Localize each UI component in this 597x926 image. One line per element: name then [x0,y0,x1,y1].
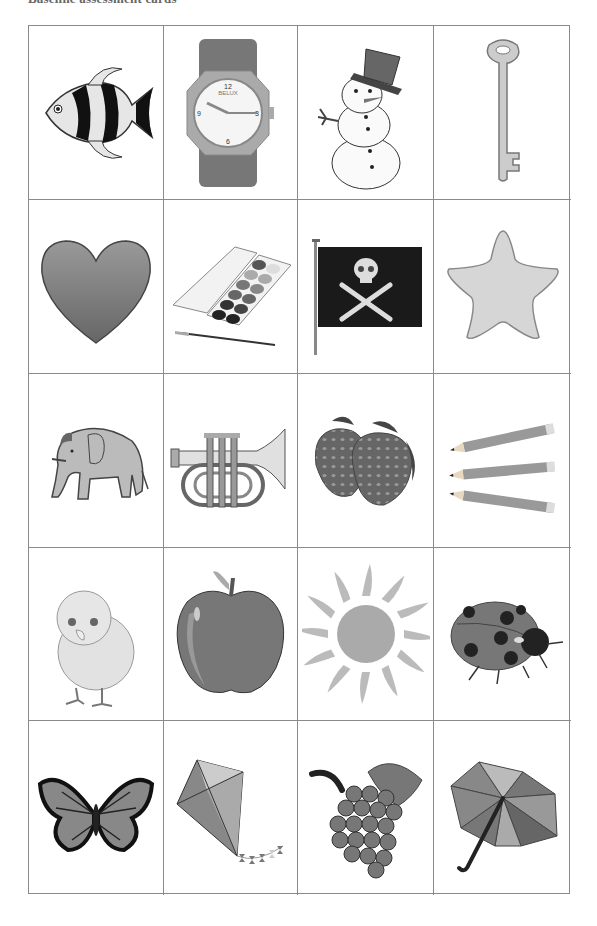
paint-box-icon [167,207,295,367]
sun-icon [302,554,430,714]
card-snowman: snowman [298,26,434,200]
watch-icon: BELUX 12 6 9 3 [167,33,295,193]
apple-icon [167,554,295,714]
trumpet-icon [167,381,295,541]
svg-text:BELUX: BELUX [218,90,238,96]
card-paint-box: paint box [164,200,298,374]
kite-icon [167,728,295,888]
card-grapes: grapes [298,721,434,895]
chick-icon [32,554,160,714]
card-fish: fish [29,26,164,200]
svg-text:6: 6 [226,138,230,145]
svg-text:9: 9 [197,110,201,117]
card-elephant: elephant [29,374,164,548]
card-apple: apple [164,548,298,721]
card-watch: watch BELUX 12 6 9 3 [164,26,298,200]
pencils-icon [439,381,567,541]
snowman-icon [302,33,430,193]
card-key: key [434,26,571,200]
key-icon [439,33,567,193]
card-heart: heart [29,200,164,374]
card-umbrella: umbrella [434,721,571,895]
card-sun: sun [298,548,434,721]
svg-text:12: 12 [224,83,232,90]
ladybird-icon [439,554,567,714]
card-pirate-flag: pirate flag [298,200,434,374]
strawberry-icon [302,381,430,541]
umbrella-icon [439,728,567,888]
card-ladybird: ladybird [434,548,571,721]
butterfly-icon [32,728,160,888]
pirate-flag-icon [302,207,430,367]
card-star: star [434,200,571,374]
card-kite: kite [164,721,298,895]
page-title: Baseline assessment cards [28,0,177,7]
card-chick: chick [29,548,164,721]
elephant-icon [32,381,160,541]
star-icon [439,207,567,367]
card-pencils: pencils [434,374,571,548]
card-butterfly: butterfly [29,721,164,895]
heart-icon [32,207,160,367]
picture-card-grid: fish watch BELUX 12 6 9 3 snowman [28,25,570,894]
fish-icon [32,33,160,193]
card-trumpet: trumpet [164,374,298,548]
card-strawberries: strawberries [298,374,434,548]
grapes-icon [302,728,430,888]
